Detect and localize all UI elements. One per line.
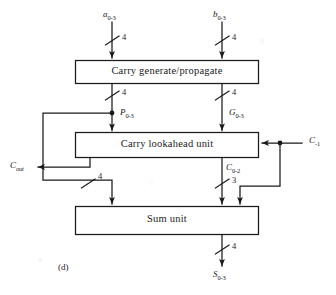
wire-c-in-to-sum-unit xyxy=(240,143,280,204)
bus-width-b: 4 xyxy=(232,33,236,42)
signal-label-c-out: Cout xyxy=(10,161,24,172)
bus-width-c-mid: 3 xyxy=(232,176,236,185)
signal-label-g-bus: G0-3 xyxy=(229,108,244,119)
junction-dot-p-tap xyxy=(110,111,115,116)
signal-label-a-input: a0-3 xyxy=(103,10,116,21)
bus-width-p-to-sum: 4 xyxy=(98,172,102,181)
signal-label-p-bus: P0-3 xyxy=(120,108,134,119)
block-label-carry-generate-propagate: Carry generate/propagate xyxy=(75,66,259,77)
block-label-sum-unit: Sum unit xyxy=(75,214,259,225)
figure-sublabel: (d) xyxy=(58,263,69,272)
signal-label-c-in: C-1 xyxy=(309,136,320,147)
bus-width-a: 4 xyxy=(122,33,126,42)
junction-dot-c-in-tap xyxy=(278,141,283,146)
signal-label-c-mid: C0-2 xyxy=(226,163,240,174)
bus-width-g: 4 xyxy=(232,88,236,97)
signal-label-s-output: S0-3 xyxy=(213,270,226,281)
wire-p-to-sum-unit xyxy=(43,113,112,204)
signal-label-b-input: b0-3 xyxy=(213,10,226,21)
bus-width-s: 4 xyxy=(232,242,236,251)
block-label-carry-lookahead-unit: Carry lookahead unit xyxy=(75,139,259,150)
wire-c-out xyxy=(38,158,90,168)
bus-width-p: 4 xyxy=(122,88,126,97)
